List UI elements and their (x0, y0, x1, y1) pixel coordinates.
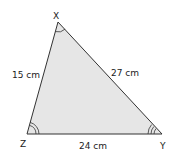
side-label-xz: 15 cm (12, 70, 40, 80)
triangle-svg: X Z Y 15 cm 27 cm 24 cm (0, 0, 176, 159)
triangle-xyz (27, 22, 162, 134)
vertex-label-y: Y (159, 141, 166, 151)
vertex-label-z: Z (20, 139, 26, 149)
vertex-label-x: X (53, 11, 59, 21)
side-label-zy: 24 cm (79, 141, 107, 151)
side-label-xy: 27 cm (111, 68, 139, 78)
triangle-diagram: X Z Y 15 cm 27 cm 24 cm (0, 0, 176, 159)
